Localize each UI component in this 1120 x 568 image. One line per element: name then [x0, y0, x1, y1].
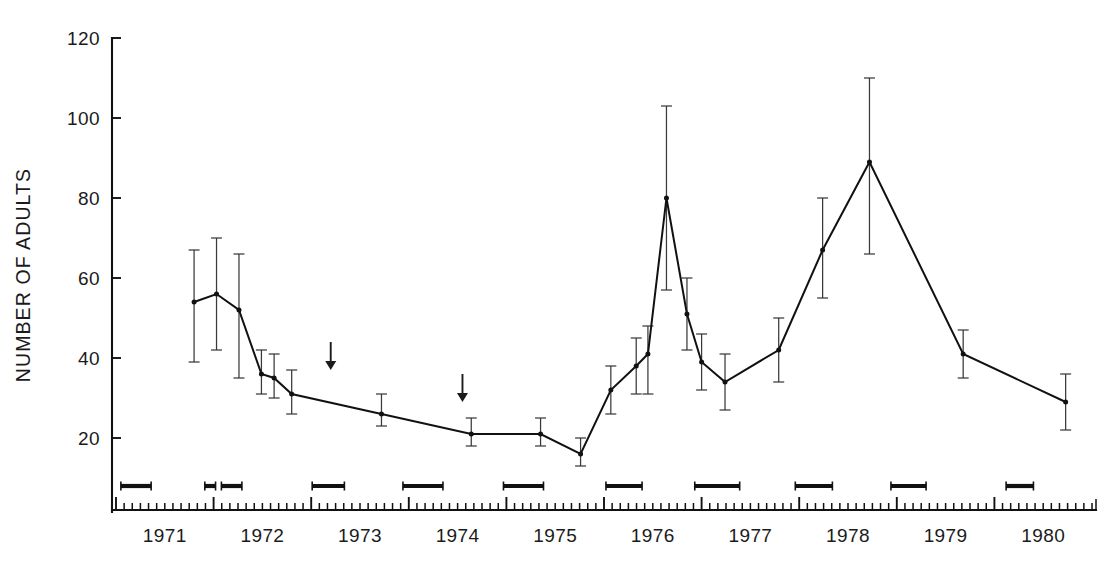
data-point-marker [1063, 400, 1068, 405]
data-point-marker [289, 392, 294, 397]
data-point-marker [272, 376, 277, 381]
x-axis-tick-label: 1972 [240, 525, 284, 546]
chart-canvas: 20406080100120NUMBER OF ADULTS1971197219… [0, 0, 1120, 568]
y-axis-tick-label: 60 [78, 268, 100, 289]
data-point-marker [578, 452, 583, 457]
data-point-marker [608, 388, 613, 393]
data-point-marker [538, 432, 543, 437]
y-axis-tick-label: 20 [78, 428, 100, 449]
data-point-marker [236, 308, 241, 313]
y-axis-tick-label: 120 [67, 28, 100, 49]
x-axis-tick-label: 1975 [533, 525, 577, 546]
x-axis-tick-label: 1978 [826, 525, 870, 546]
x-axis-tick-label: 1979 [924, 525, 968, 546]
y-axis-title: NUMBER OF ADULTS [12, 168, 34, 382]
data-point-marker [664, 196, 669, 201]
x-axis-tick-label: 1980 [1021, 525, 1065, 546]
data-point-marker [699, 360, 704, 365]
arrow-marker-1-head [325, 361, 336, 370]
data-point-marker [776, 348, 781, 353]
data-point-marker [684, 312, 689, 317]
data-point-marker [820, 248, 825, 253]
y-axis-tick-label: 100 [67, 108, 100, 129]
data-point-marker [723, 380, 728, 385]
arrow-marker-2-head [457, 393, 468, 402]
data-point-marker [867, 160, 872, 165]
x-axis-tick-label: 1976 [631, 525, 675, 546]
x-axis-tick-label: 1971 [143, 525, 187, 546]
chart-figure: 20406080100120NUMBER OF ADULTS1971197219… [0, 0, 1120, 568]
data-point-marker [469, 432, 474, 437]
y-axis-tick-label: 40 [78, 348, 100, 369]
data-point-marker [645, 352, 650, 357]
x-axis-tick-label: 1977 [728, 525, 772, 546]
x-axis-tick-label: 1973 [338, 525, 382, 546]
data-point-marker [214, 292, 219, 297]
data-point-marker [379, 412, 384, 417]
data-point-marker [259, 372, 264, 377]
series-line-number-of-adults [194, 162, 1066, 454]
data-point-marker [634, 364, 639, 369]
y-axis-tick-label: 80 [78, 188, 100, 209]
data-point-marker [192, 300, 197, 305]
data-point-marker [961, 352, 966, 357]
x-axis-tick-label: 1974 [436, 525, 480, 546]
